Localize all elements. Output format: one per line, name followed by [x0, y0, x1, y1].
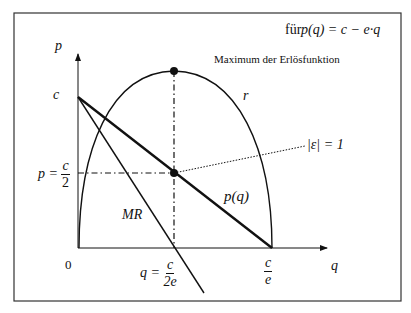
x-axis-label: q [331, 258, 338, 274]
formula-label: p(q) = c − e·q [301, 22, 380, 38]
y-axis-label: p [55, 38, 62, 54]
frame-border [14, 13, 401, 301]
elasticity-label: |ε| = 1 [307, 137, 344, 153]
ce-den: e [265, 272, 271, 287]
p-half-den: 2 [62, 175, 69, 190]
q-half-prefix: q = [140, 265, 160, 280]
p-half-num: c [61, 159, 69, 175]
ce-label: ce [264, 256, 272, 287]
q-half-num: c [166, 258, 174, 274]
p-half-label: p = c2 [38, 159, 70, 190]
unit-elastic-point [170, 169, 178, 177]
fuer-label: für [285, 22, 301, 38]
p-half-prefix: p = [38, 166, 58, 181]
revenue-max-point [170, 67, 178, 75]
demand-curve-label: p(q) [224, 188, 249, 205]
c-label: c [53, 87, 59, 103]
q-half-den: 2e [163, 274, 176, 289]
mr-curve-label: MR [122, 207, 142, 223]
origin-label: 0 [65, 257, 72, 273]
q-half-label: q = c2e [140, 258, 177, 289]
subtitle-label: Maximum der Erlösfunktion [214, 53, 340, 65]
ce-num: c [264, 256, 272, 272]
elasticity-pointer [174, 146, 305, 173]
revenue-curve-label: r [243, 88, 248, 104]
